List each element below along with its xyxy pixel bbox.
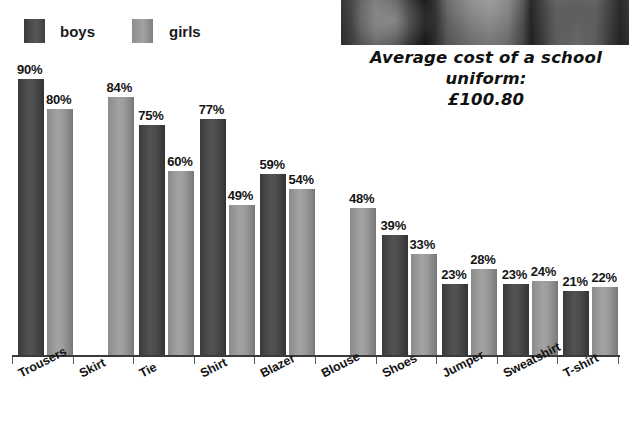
bar-t-shirt-girls bbox=[592, 287, 618, 355]
bar-value-sweatshirt-girls: 24% bbox=[531, 264, 556, 279]
bar-value-blazer-girls: 54% bbox=[288, 172, 313, 187]
category-label-tie: Tie bbox=[137, 360, 159, 380]
x-axis-tick bbox=[557, 357, 558, 364]
bar-value-jumper-boys: 23% bbox=[441, 267, 466, 282]
bar-chart-plot: 90%80%84%75%60%77%49%59%54%48%39%33%23%2… bbox=[0, 0, 634, 423]
bar-sweatshirt-boys bbox=[503, 284, 529, 355]
x-axis-tick bbox=[73, 357, 74, 364]
bar-tie-boys bbox=[139, 125, 165, 355]
x-axis-tick bbox=[376, 357, 377, 364]
bar-value-sweatshirt-boys: 23% bbox=[502, 267, 527, 282]
bar-tie-girls bbox=[168, 171, 194, 355]
x-axis-tick bbox=[254, 357, 255, 364]
bar-value-trousers-boys: 90% bbox=[17, 62, 42, 77]
x-axis-tick bbox=[133, 357, 134, 364]
bar-value-jumper-girls: 28% bbox=[470, 252, 495, 267]
x-axis-tick bbox=[194, 357, 195, 364]
bar-blazer-girls bbox=[289, 189, 315, 355]
bar-skirt-girls bbox=[108, 97, 134, 355]
bar-jumper-girls bbox=[471, 269, 497, 355]
bar-shoes-boys bbox=[382, 235, 408, 355]
bar-value-shoes-boys: 39% bbox=[381, 218, 406, 233]
bar-shoes-girls bbox=[411, 254, 437, 355]
bar-shirt-girls bbox=[229, 205, 255, 355]
x-axis-tick bbox=[436, 357, 437, 364]
bar-value-blazer-boys: 59% bbox=[259, 157, 284, 172]
bar-value-skirt-girls: 84% bbox=[107, 80, 132, 95]
x-axis-tick bbox=[315, 357, 316, 364]
bar-value-shirt-girls: 49% bbox=[228, 188, 253, 203]
bar-jumper-boys bbox=[442, 284, 468, 355]
bar-value-shirt-boys: 77% bbox=[199, 102, 224, 117]
bar-value-shoes-girls: 33% bbox=[410, 237, 435, 252]
bar-value-t-shirt-girls: 22% bbox=[591, 270, 616, 285]
bar-blazer-boys bbox=[260, 174, 286, 355]
bar-shirt-boys bbox=[200, 119, 226, 355]
bar-value-blouse-girls: 48% bbox=[349, 191, 374, 206]
category-label-skirt: Skirt bbox=[77, 356, 108, 381]
bar-value-trousers-girls: 80% bbox=[46, 92, 71, 107]
bar-t-shirt-boys bbox=[563, 291, 589, 355]
x-axis-tick bbox=[618, 357, 619, 364]
bar-value-tie-girls: 60% bbox=[167, 154, 192, 169]
bar-value-tie-boys: 75% bbox=[138, 108, 163, 123]
bar-blouse-girls bbox=[350, 208, 376, 355]
x-axis-tick bbox=[497, 357, 498, 364]
x-axis-tick bbox=[12, 357, 13, 364]
category-label-shirt: Shirt bbox=[198, 355, 229, 380]
bar-trousers-boys bbox=[18, 79, 44, 355]
bar-trousers-girls bbox=[47, 109, 73, 355]
bar-value-t-shirt-boys: 21% bbox=[562, 274, 587, 289]
